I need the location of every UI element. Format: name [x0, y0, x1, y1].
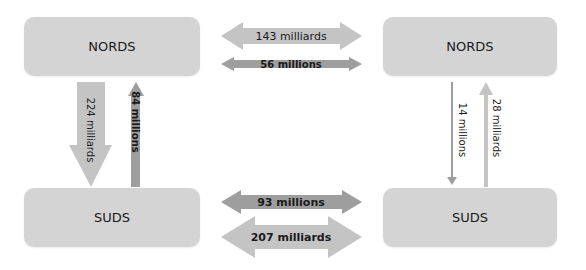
double-arrow-56-millions: 56 millions — [221, 57, 362, 71]
label-56-millions: 56 millions — [260, 59, 322, 70]
label-143-milliards: 143 milliards — [255, 30, 326, 43]
double-arrow-143-milliards: 143 milliards — [221, 22, 362, 50]
label-84-millions: 84 millions — [130, 91, 141, 153]
double-arrow-93-millions: 93 millions — [221, 190, 362, 214]
down-arrow-224-milliards: 224 milliards — [69, 82, 112, 187]
label-28-milliards: 28 milliards — [491, 99, 502, 157]
up-arrow-84-millions: 84 millions — [128, 82, 144, 187]
label-93-millions: 93 millions — [257, 196, 325, 209]
down-arrow-14-millions: 14 millions — [447, 82, 468, 185]
up-arrow-28-milliards: 28 milliards — [479, 82, 502, 187]
arrows-layer: 143 milliards 56 millions 93 millions 20… — [0, 0, 586, 270]
label-224-milliards: 224 milliards — [85, 98, 96, 163]
label-14-millions: 14 millions — [457, 103, 468, 157]
double-arrow-207-milliards: 207 milliards — [221, 216, 362, 258]
label-207-milliards: 207 milliards — [251, 231, 332, 244]
